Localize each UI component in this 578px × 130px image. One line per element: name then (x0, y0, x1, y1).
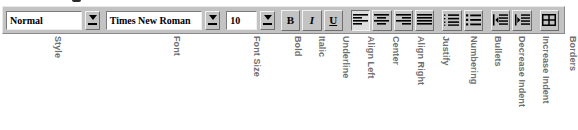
caption-numbering: Numbering (469, 36, 479, 84)
bullets-button[interactable] (464, 10, 483, 31)
bold-icon: B (287, 15, 294, 26)
bulleted-list-icon (466, 14, 481, 26)
style-combo-input[interactable]: Normal (6, 11, 82, 30)
font-combo-input[interactable]: Times New Roman (106, 11, 203, 30)
caption-font: Font (172, 36, 182, 56)
justify-button[interactable] (415, 10, 434, 31)
align-left-icon (353, 14, 368, 26)
underline-icon: U (329, 15, 337, 26)
caption-bold: Bold (293, 36, 303, 56)
align-justify-icon (417, 14, 432, 26)
increase-indent-icon (515, 14, 530, 26)
caption-underline: Underline (341, 36, 351, 78)
caption-justify: Justify (441, 36, 451, 66)
borders-grid-icon (542, 14, 556, 26)
chevron-down-icon (208, 15, 217, 26)
italic-icon: I (310, 15, 314, 26)
caption-borders: Borders (568, 36, 578, 71)
numbering-button[interactable] (442, 10, 461, 31)
caption-italic: Italic (317, 36, 327, 57)
numbered-list-icon (444, 14, 459, 26)
font-size-combo-input[interactable]: 10 (226, 11, 257, 30)
caption-decrease-indent: Decrease Indent (517, 36, 527, 107)
center-button[interactable] (372, 10, 391, 31)
underline-button[interactable]: U (324, 10, 343, 31)
decrease-indent-button[interactable] (491, 10, 510, 31)
increase-indent-button[interactable] (512, 10, 531, 31)
caption-align-left: Align Left (366, 36, 376, 79)
style-dropdown-button[interactable] (85, 11, 100, 30)
bold-button[interactable]: B (281, 10, 300, 31)
align-center-icon (374, 14, 389, 26)
caption-increase-indent: Increase Indent (541, 36, 551, 104)
font-dropdown-button[interactable] (205, 11, 220, 30)
borders-button[interactable] (540, 10, 559, 31)
caption-align-right: Align Right (416, 36, 426, 85)
caption-style: Style (53, 36, 63, 58)
formatting-toolbar: Normal Times New Roman 10 B I U (2, 6, 565, 34)
italic-button[interactable]: I (302, 10, 321, 31)
chevron-down-icon (263, 15, 272, 26)
align-right-icon (396, 14, 411, 26)
caption-bullets: Bullets (493, 36, 503, 67)
caption-font-size: Font Size (252, 36, 262, 77)
chevron-down-icon (88, 15, 97, 26)
align-right-button[interactable] (394, 10, 413, 31)
clipped-heading-glyph (72, 0, 81, 2)
decrease-indent-icon (493, 14, 508, 26)
font-size-dropdown-button[interactable] (260, 11, 275, 30)
caption-layer: Style Font Font Size Bold Italic Underli… (0, 34, 569, 130)
align-left-button[interactable] (351, 10, 370, 31)
caption-center: Center (391, 36, 401, 65)
